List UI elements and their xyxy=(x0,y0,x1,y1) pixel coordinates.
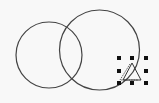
resize-handle[interactable] xyxy=(130,81,134,85)
resize-handle[interactable] xyxy=(117,81,121,85)
selection-handles[interactable] xyxy=(117,56,148,85)
resize-handle[interactable] xyxy=(130,56,134,60)
drawing-canvas[interactable] xyxy=(0,0,159,103)
resize-handle[interactable] xyxy=(117,69,121,73)
left-circle[interactable] xyxy=(16,22,82,88)
selected-triangle-group[interactable] xyxy=(120,63,141,80)
drawing-surface[interactable] xyxy=(0,0,159,103)
resize-handle[interactable] xyxy=(144,81,148,85)
right-circle[interactable] xyxy=(60,10,140,90)
resize-handle[interactable] xyxy=(144,69,148,73)
resize-handle[interactable] xyxy=(144,56,148,60)
resize-handle[interactable] xyxy=(117,56,121,60)
